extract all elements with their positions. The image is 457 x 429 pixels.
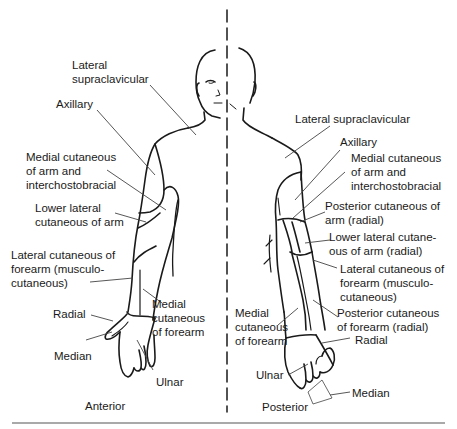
dermatome-figure: Lateral supraclavicular Axillary Medial …	[0, 0, 457, 429]
view-caption-anterior: Anterior	[85, 399, 125, 413]
label-anterior-lateral-supraclavicular: Lateral supraclavicular	[72, 58, 149, 86]
label-anterior-medial-cutaneous-arm: Medial cutaneous of arm and interchostob…	[26, 150, 116, 192]
label-posterior-radial: Radial	[355, 333, 388, 347]
label-posterior-axillary: Axillary	[340, 135, 377, 149]
label-posterior-lateral-cutaneous-forearm: Lateral cutaneous of forearm (musculo- c…	[340, 262, 444, 304]
label-posterior-ulnar: Ulnar	[256, 368, 283, 382]
label-posterior-lateral-supraclavicular: Lateral supraclavicular	[295, 112, 410, 126]
view-caption-posterior: Posterior	[262, 400, 308, 414]
label-anterior-lower-lateral-cutaneous-arm: Lower lateral cutaneous of arm	[35, 201, 124, 229]
label-posterior-medial-cutaneous-forearm: Medial cutaneous of forearm	[235, 306, 288, 348]
label-posterior-lower-lateral-cutaneous-arm: Lower lateral cutane- ous of arm (radial…	[329, 230, 436, 258]
label-posterior-cutaneous-arm: Posterior cutaneous of arm (radial)	[325, 199, 440, 227]
label-posterior-cutaneous-forearm: Posterior cutaneous of forearm (radial)	[337, 306, 439, 334]
label-posterior-medial-cutaneous-arm: Medial cutaneous of arm and interchostob…	[351, 151, 441, 193]
label-posterior-median: Median	[352, 386, 390, 400]
label-anterior-median: Median	[54, 349, 92, 363]
label-anterior-medial-cutaneous-forearm: Medial cutaneous of forearm	[152, 297, 205, 339]
label-anterior-lateral-cutaneous-forearm: Lateral cutaneous of forearm (musculo- c…	[11, 248, 115, 290]
label-anterior-ulnar: Ulnar	[156, 375, 183, 389]
label-anterior-axillary: Axillary	[56, 97, 93, 111]
label-anterior-radial: Radial	[53, 307, 86, 321]
